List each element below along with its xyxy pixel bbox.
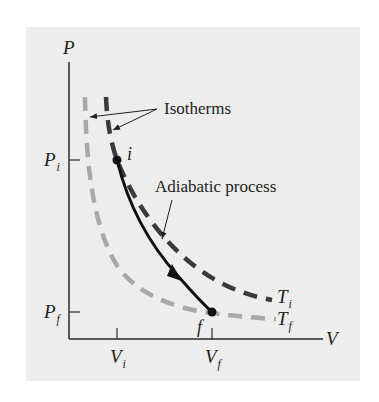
point-f-marker — [208, 308, 217, 317]
isotherms-leaders — [90, 109, 157, 130]
isotherms-annotation: Isotherms — [164, 100, 231, 117]
p-axis-label: P — [63, 38, 75, 57]
pi-tick-label: Pi — [44, 150, 60, 169]
ti-label: Ti — [277, 287, 292, 306]
vf-tick-label: Vf — [205, 347, 221, 366]
point-f-label: f — [197, 318, 202, 336]
v-axis-label: V — [326, 329, 338, 348]
adiabatic-leader — [162, 200, 172, 239]
vi-tick-label: Vi — [110, 347, 126, 366]
isotherm-tf-curve — [85, 97, 276, 319]
pf-tick-label: Pf — [44, 302, 60, 321]
tf-label: Tf — [277, 309, 292, 328]
point-i-marker — [113, 156, 122, 165]
pv-diagram — [0, 0, 379, 402]
adiabatic-process-annotation: Adiabatic process — [155, 178, 276, 195]
point-i-label: i — [127, 145, 132, 163]
